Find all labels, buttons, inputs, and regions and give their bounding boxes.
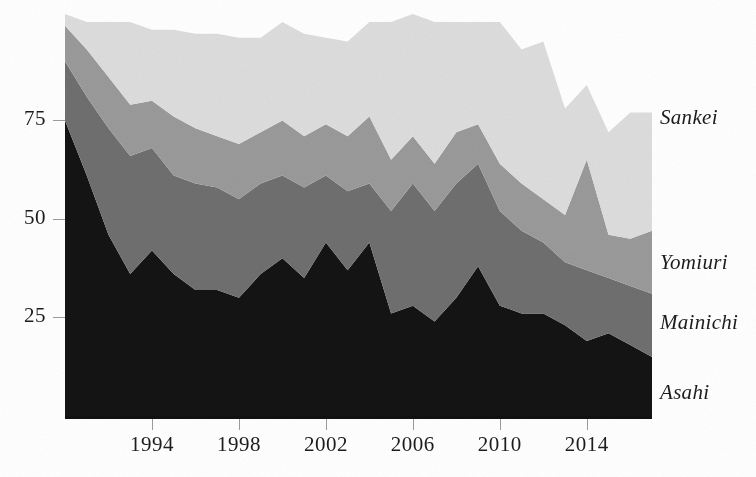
y-tick-50 (53, 219, 65, 220)
y-tick-label-25: 25 (0, 303, 46, 328)
series-label-sankei: Sankei (660, 105, 718, 130)
x-tick-2002 (326, 419, 327, 430)
area-bands (65, 14, 652, 416)
x-tick-2006 (413, 419, 414, 430)
y-tick-label-75: 75 (0, 106, 46, 131)
y-tick-label-50: 50 (0, 205, 46, 230)
plot-area (65, 14, 652, 416)
x-tick-label-2006: 2006 (373, 432, 453, 457)
x-tick-label-1998: 1998 (199, 432, 279, 457)
series-label-asahi: Asahi (660, 380, 709, 405)
x-tick-label-2002: 2002 (286, 432, 366, 457)
series-label-yomiuri: Yomiuri (660, 250, 728, 275)
y-tick-25 (53, 317, 65, 318)
x-tick-2014 (587, 419, 588, 430)
x-tick-label-2010: 2010 (460, 432, 540, 457)
x-axis-line (65, 416, 652, 419)
x-tick-1994 (152, 419, 153, 430)
stacked-area-chart-figure: 199419982002200620102014 255075 SankeiYo… (0, 0, 756, 477)
series-label-mainichi: Mainichi (660, 310, 738, 335)
x-tick-1998 (239, 419, 240, 430)
plot-svg (65, 14, 652, 416)
x-tick-label-1994: 1994 (112, 432, 192, 457)
x-tick-2010 (500, 419, 501, 430)
y-tick-75 (53, 120, 65, 121)
x-tick-label-2014: 2014 (547, 432, 627, 457)
